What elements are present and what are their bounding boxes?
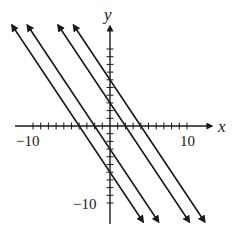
y-tick-label-neg10: −10 xyxy=(73,196,96,212)
axes xyxy=(15,26,212,224)
y-axis-label: y xyxy=(102,5,112,24)
x-axis-label: x xyxy=(217,117,226,136)
x-tick-label-neg10: −10 xyxy=(16,133,39,149)
coordinate-plane: x y −10 10 −10 xyxy=(0,0,239,235)
x-tick-label-10: 10 xyxy=(180,133,195,149)
